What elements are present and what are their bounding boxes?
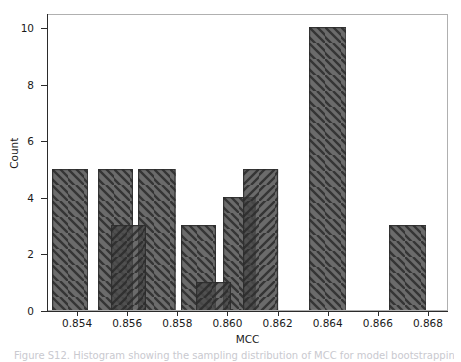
x-axis-tick [328, 311, 329, 316]
y-axis-tick-label: 4 [0, 193, 34, 204]
y-axis-tick [41, 254, 47, 255]
x-axis-tick [177, 311, 178, 316]
figure-caption: Figure S12. Histogram showing the sampli… [14, 350, 454, 362]
x-axis-tick [77, 311, 78, 316]
x-axis-tick-label: 0.868 [398, 318, 458, 329]
x-axis-tick [378, 311, 379, 316]
y-axis-tick [41, 28, 47, 29]
x-axis-tick [428, 311, 429, 316]
y-axis-tick-label: 10 [0, 23, 34, 34]
bars-layer [48, 15, 447, 310]
histogram-bar [309, 27, 347, 310]
y-axis-tick [41, 311, 47, 312]
y-axis-tick [41, 85, 47, 86]
y-axis-line [47, 14, 48, 311]
histogram-bar [389, 225, 427, 310]
histogram-bar [52, 169, 88, 310]
histogram-bar [196, 282, 231, 310]
x-axis-tick [278, 311, 279, 316]
y-axis-tick [41, 198, 47, 199]
plot-area [47, 14, 448, 311]
x-axis-title: MCC [47, 334, 448, 345]
y-axis-tick-label: 0 [0, 306, 34, 317]
y-axis-tick-label: 8 [0, 80, 34, 91]
histogram-bar [243, 169, 278, 310]
y-axis-tick [41, 141, 47, 142]
x-axis-line [47, 311, 448, 312]
y-axis-title: Count [9, 118, 20, 188]
x-axis-tick [127, 311, 128, 316]
x-axis-tick [227, 311, 228, 316]
histogram-bar [111, 225, 146, 310]
y-axis-tick-label: 2 [0, 249, 34, 260]
